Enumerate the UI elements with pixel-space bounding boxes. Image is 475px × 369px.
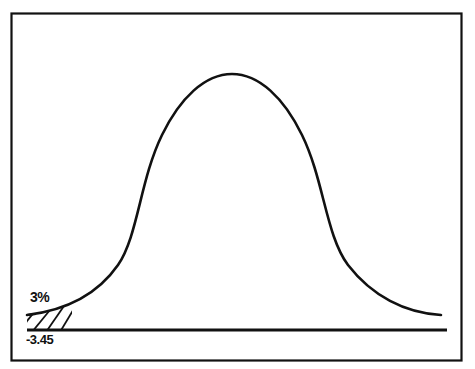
bell-curve <box>27 74 441 315</box>
cutoff-value-label: -3.45 <box>26 332 53 347</box>
tail-percent-label: 3% <box>30 289 49 305</box>
normal-distribution-figure <box>0 0 475 369</box>
figure-frame <box>12 14 462 361</box>
shaded-tail-region <box>18 302 78 332</box>
